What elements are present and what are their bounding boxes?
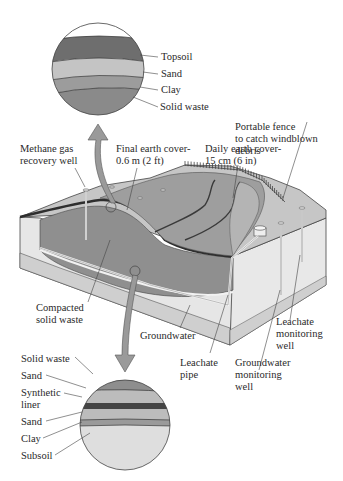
bottom-inset [43, 357, 172, 472]
label-clay-top: Clay [161, 84, 181, 96]
bot-layer-sand-lower [78, 409, 172, 420]
leader-liner [64, 393, 82, 397]
leachate-tank [254, 226, 266, 236]
leader-sand-bot-2 [46, 412, 82, 421]
leader-clay-bot [43, 422, 82, 438]
leader-solid-waste-bot [75, 357, 93, 374]
leader-sand-top [143, 72, 158, 74]
label-clay-bot: Clay [21, 433, 41, 445]
bot-layer-sand-upper [78, 390, 172, 405]
bot-layer-synthetic-liner [78, 403, 172, 409]
label-groundwater: Groundwater [140, 330, 195, 342]
label-compacted-waste: Compacted solid waste [36, 302, 84, 326]
label-topsoil: Topsoil [161, 51, 192, 63]
label-daily-cover: Daily earth cover- 15 cm (6 in) [205, 143, 281, 167]
label-final-cover: Final earth cover- 0.6 m (2 ft) [116, 143, 190, 167]
label-leachate-pipe: Leachate pipe [180, 357, 218, 381]
leader-solid-waste-top [133, 97, 158, 107]
top-inset [50, 20, 158, 120]
label-sand-bot-1: Sand [21, 370, 42, 382]
label-methane-well: Methane gas recovery well [20, 143, 77, 167]
leader-methane [75, 168, 85, 187]
leader-clay-top [140, 87, 158, 90]
label-gw-well: Groundwater monitoring well [235, 357, 290, 393]
label-solid-waste-top: Solid waste [160, 101, 209, 113]
label-synthetic-liner-text: Synthetic liner [21, 387, 65, 411]
label-leachate-well: Leachate monitoring well [276, 316, 323, 352]
label-solid-waste-bot: Solid waste [21, 353, 70, 365]
label-synthetic-liner: Synthetic liner [21, 387, 65, 411]
label-subsoil: Subsoil [21, 450, 53, 462]
label-sand-top: Sand [161, 68, 182, 80]
label-sand-bot-2: Sand [21, 416, 42, 428]
